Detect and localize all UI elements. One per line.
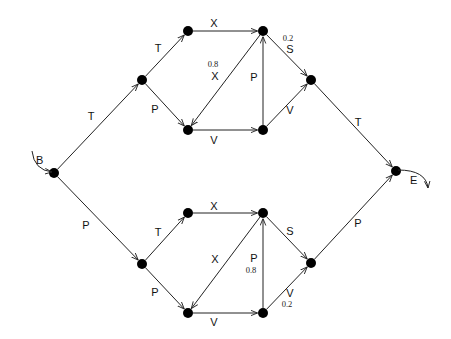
state-node-l5 [258,308,268,318]
state-node-u2 [183,26,193,36]
edge-label: X [211,253,219,265]
edge-label: T [155,226,162,238]
end-label: E [410,174,417,186]
edge-l6-E [314,175,392,259]
edge-u6-E [314,84,392,167]
edge-label: P [82,219,89,231]
state-node-u4 [258,26,268,36]
transition-probability: 0.2 [283,33,294,43]
edge-u1-u2 [145,35,184,76]
state-node-E [391,166,401,176]
edge-B-u1 [57,84,138,169]
edge-B-l1 [57,177,138,260]
state-node-l6 [306,258,316,268]
edge-label: V [210,316,218,328]
edge-label: T [88,110,95,122]
state-node-B [49,168,59,178]
state-node-u1 [137,75,147,85]
transition-probability: 0.8 [208,59,219,69]
labels-layer: TPTPXVPX0.8S0.2VTTPXVP0.8XSV0.2P [82,17,361,328]
start-label: B [36,154,43,166]
state-node-u3 [183,125,193,135]
transition-probability: 0.8 [246,265,257,275]
state-node-l1 [137,259,147,269]
edge-label: X [210,200,218,212]
edge-label: V [210,134,218,146]
edge-label: X [210,17,218,29]
transition-probability: 0.2 [282,299,293,309]
edge-label: P [250,71,257,83]
edge-l1-l2 [145,217,184,260]
edge-label: P [151,103,158,115]
state-node-l4 [258,208,268,218]
state-node-l2 [183,208,193,218]
edge-label: X [211,70,219,82]
edge-label: V [286,287,294,299]
edge-label: P [151,286,158,298]
edge-label: P [354,217,361,229]
edge-label: S [286,225,293,237]
edge-l4-l6 [266,217,307,259]
reber-grammar-diagram: TPTPXVPX0.8S0.2VTTPXVP0.8XSV0.2P B E [0,0,451,339]
state-node-l3 [183,308,193,318]
edge-label: P [250,252,257,264]
edge-label: S [286,43,293,55]
edge-label: T [355,116,362,128]
state-node-u5 [258,125,268,135]
edge-label: T [155,42,162,54]
nodes-layer [49,26,401,318]
edges-layer [57,31,392,313]
state-node-u6 [306,75,316,85]
edge-label: V [286,104,294,116]
